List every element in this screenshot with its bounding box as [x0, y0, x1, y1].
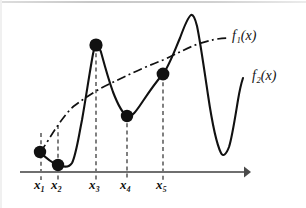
- axis-arrow-head: [244, 167, 251, 178]
- sample-point-x1: [34, 146, 46, 158]
- curve-f2-solid: [40, 15, 243, 167]
- sample-point-x2: [52, 159, 64, 171]
- axis-tick-label-x3-text: x₃: [89, 177, 100, 192]
- curve-label-f2: f₂(x): [252, 69, 276, 83]
- axis-tick-label-x4: x₄: [120, 178, 131, 191]
- axis-tick-label-x4-text: x₄: [120, 177, 131, 192]
- axis-tick-label-x5: x₅: [156, 178, 167, 191]
- axis-tick-label-x1-text: x₁: [34, 177, 45, 192]
- curve-label-f2-text: f₂(x): [252, 68, 276, 83]
- axis-tick-label-x2-text: x₂: [51, 177, 62, 192]
- figure-canvas: x₁ x₂ x₃ x₄ x₅ f₁(x) f₂(x): [0, 0, 306, 208]
- axis-tick-label-x3: x₃: [89, 178, 100, 191]
- curve-label-f1-text: f₁(x): [232, 28, 256, 43]
- sample-points-group: [34, 38, 170, 171]
- axis-tick-label-x2: x₂: [51, 178, 62, 191]
- diagram-svg: [0, 0, 306, 208]
- sample-point-x3: [89, 38, 102, 51]
- axis-tick-label-x1: x₁: [34, 178, 45, 191]
- axis-tick-label-x5-text: x₅: [156, 177, 167, 192]
- curve-label-f1: f₁(x): [232, 29, 256, 43]
- sample-point-x5: [157, 68, 170, 81]
- curve-f1-dashdot: [40, 38, 228, 152]
- sample-point-x4: [121, 110, 133, 122]
